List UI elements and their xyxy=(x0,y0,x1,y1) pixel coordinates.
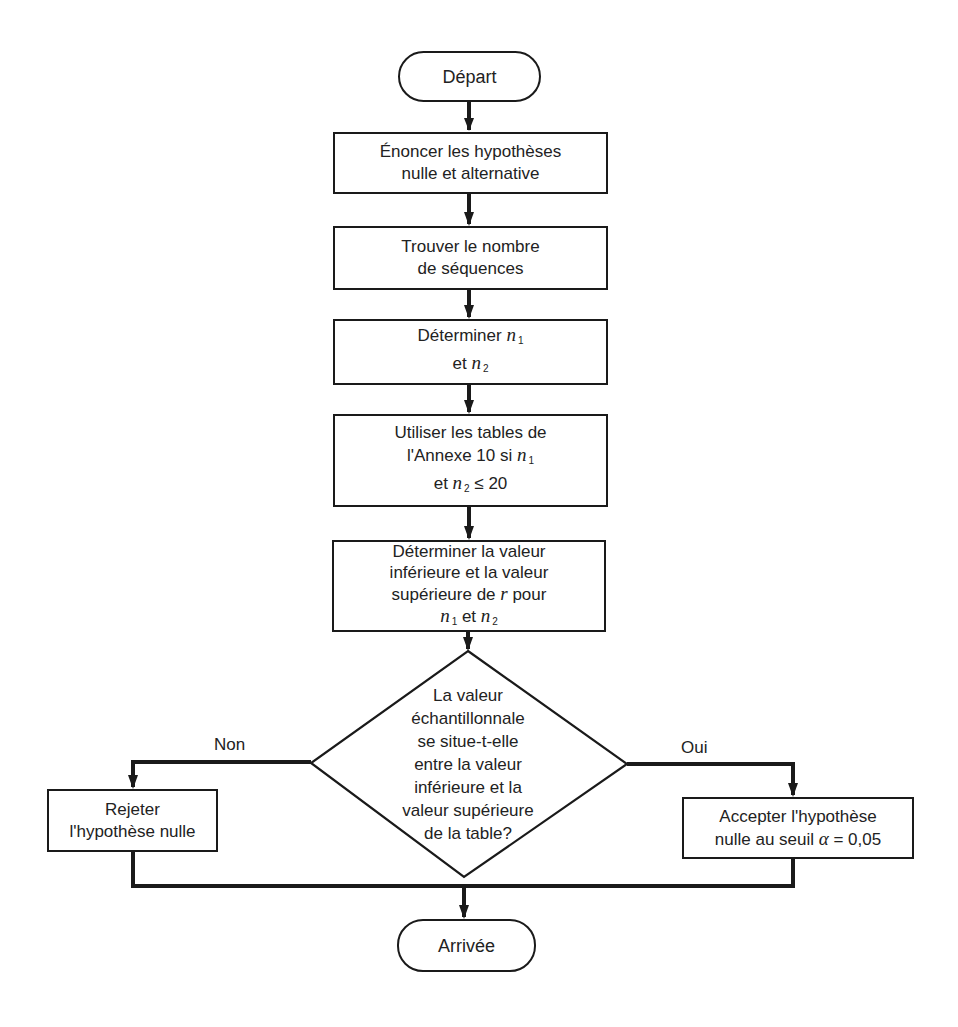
reject-line1: Rejeter xyxy=(105,799,160,821)
arrow-decision-accept xyxy=(627,764,793,795)
decision-line1: La valeur xyxy=(433,684,503,707)
step-use-tables: Utiliser les tables de l'Annexe 10 si n1… xyxy=(333,414,608,507)
decision-question: La valeur échantillonnale se situe-t-ell… xyxy=(368,680,568,848)
step5-line1: Déterminer la valeur xyxy=(392,541,545,562)
step2-line2: de séquences xyxy=(418,258,524,280)
start-label: Départ xyxy=(442,66,496,88)
step5-line3: supérieure de r pour xyxy=(392,583,547,605)
accept-line1: Accepter l'hypothèse xyxy=(719,806,876,828)
step-count-runs: Trouver le nombre de séquences xyxy=(333,226,608,290)
reject-line2: l'hypothèse nulle xyxy=(69,821,195,843)
step-reject-null: Rejeter l'hypothèse nulle xyxy=(47,789,218,852)
step4-line3: et n2 ≤ 20 xyxy=(434,472,508,500)
step-determine-n1-n2: Déterminer n1 et n2 xyxy=(333,319,608,385)
step-state-hypotheses: Énoncer les hypothèses nulle et alternat… xyxy=(333,132,608,194)
accept-line2: nulle au seuil α = 0,05 xyxy=(715,828,881,851)
step5-line4: n1 et n2 xyxy=(440,605,498,632)
start-terminal: Départ xyxy=(398,51,541,102)
end-label: Arrivée xyxy=(438,935,495,957)
step3-line2: et n2 xyxy=(453,352,489,380)
step4-line2: l'Annexe 10 si n1 xyxy=(407,444,534,472)
decision-line6: valeur supérieure xyxy=(402,799,533,822)
decision-line4: entre la valeur xyxy=(414,753,522,776)
decision-line2: échantillonnale xyxy=(411,707,524,730)
arrow-decision-reject xyxy=(133,762,311,787)
step-determine-bounds: Déterminer la valeur inférieure et la va… xyxy=(332,540,606,632)
decision-line5: inférieure et la xyxy=(414,776,522,799)
end-terminal: Arrivée xyxy=(397,919,536,972)
decision-line7: de la table? xyxy=(424,822,512,845)
step3-line1: Déterminer n1 xyxy=(418,324,524,352)
edge-label-no: Non xyxy=(214,735,245,755)
step2-line1: Trouver le nombre xyxy=(401,236,539,258)
step1-line2: nulle et alternative xyxy=(402,163,540,185)
step4-line1: Utiliser les tables de xyxy=(394,422,546,444)
decision-line3: se situe-t-elle xyxy=(417,730,518,753)
step5-line2: inférieure et la valeur xyxy=(390,562,549,583)
edge-label-yes: Oui xyxy=(681,738,707,758)
step-accept-null: Accepter l'hypothèse nulle au seuil α = … xyxy=(682,797,914,859)
step1-line1: Énoncer les hypothèses xyxy=(380,141,561,163)
